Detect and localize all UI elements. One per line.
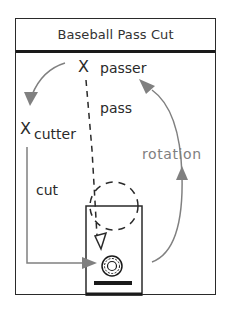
- cut-label: cut: [36, 183, 58, 197]
- ball-icon: [102, 256, 122, 276]
- passer-label: passer: [100, 61, 146, 75]
- passer-move-arrow: [32, 63, 65, 95]
- rotation-label: rotation: [142, 147, 202, 161]
- triangle-down-icon: [95, 233, 106, 249]
- cutter-x-icon: X: [20, 121, 31, 137]
- cut-arrow: [27, 147, 84, 263]
- basket-bar-icon: [94, 281, 132, 285]
- passer-x-icon: X: [78, 59, 89, 75]
- arrowhead-right-icon: [82, 257, 97, 269]
- arrowhead-upleft-icon: [139, 79, 155, 94]
- arrowhead-down-icon: [24, 92, 38, 106]
- cutter-label: cutter: [34, 127, 76, 141]
- arrowhead-up-icon: [176, 166, 188, 180]
- pass-label: pass: [100, 101, 132, 115]
- rotation-arrow: [152, 90, 182, 262]
